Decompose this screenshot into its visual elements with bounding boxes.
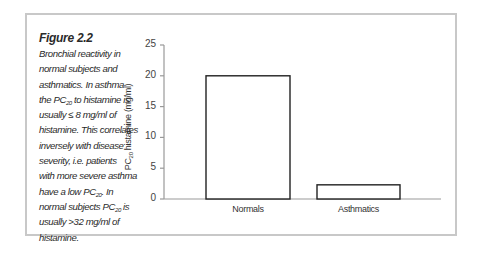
- x-category-label: Normals: [203, 204, 293, 214]
- y-tick-label: 15: [136, 100, 156, 111]
- bar-chart: [0, 0, 482, 256]
- y-tick-label: 5: [136, 161, 156, 172]
- y-tick-label: 25: [136, 38, 156, 49]
- x-category-label: Asthmatics: [314, 204, 404, 214]
- y-tick-label: 10: [136, 130, 156, 141]
- bar-asthmatics: [317, 185, 400, 199]
- bar-normals: [206, 76, 290, 199]
- y-tick-label: 20: [136, 69, 156, 80]
- y-tick-label: 0: [136, 192, 156, 203]
